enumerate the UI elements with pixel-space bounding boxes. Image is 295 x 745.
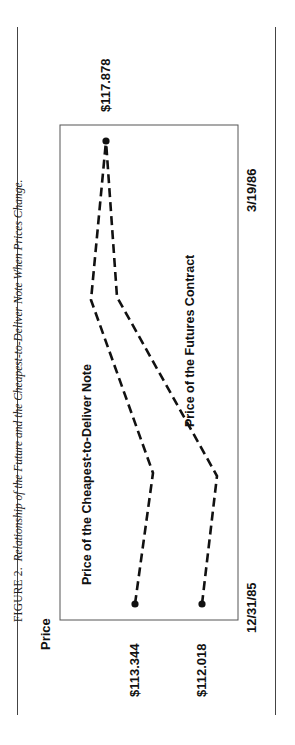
series-futures-line (106, 141, 217, 604)
chart-plot (0, 0, 295, 745)
figure-page: FIGURE 2. Relationship of the Future and… (0, 0, 295, 745)
end-point (102, 137, 109, 144)
rotated-figure: FIGURE 2. Relationship of the Future and… (0, 0, 295, 745)
series-note-line (91, 141, 153, 604)
start-point-note (131, 600, 138, 607)
start-point-futures (198, 600, 205, 607)
plot-frame (60, 125, 238, 620)
